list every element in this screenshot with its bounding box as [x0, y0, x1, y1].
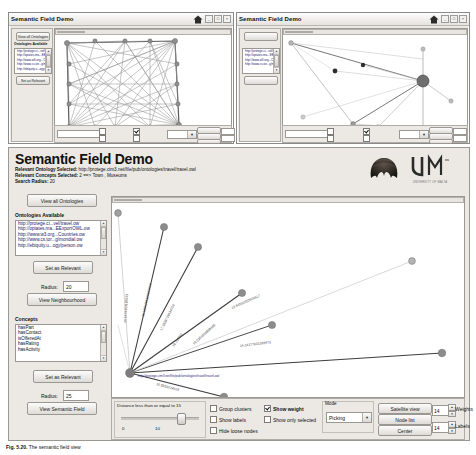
- scroll-down-icon[interactable]: ▼: [46, 67, 51, 73]
- scroll-thumb[interactable]: [101, 227, 106, 239]
- node-list-button[interactable]: Node list: [378, 414, 432, 425]
- window-right-buttons[interactable]: _ □ ×: [441, 15, 467, 23]
- scroll-thumb[interactable]: [274, 55, 279, 67]
- scroll-thumb[interactable]: [114, 199, 142, 201]
- window-right[interactable]: Semantic Field Demo _ □ × http://protege…: [236, 12, 470, 144]
- checkbox-group-clusters[interactable]: Group clusters: [210, 405, 252, 412]
- center-button-right[interactable]: [429, 139, 453, 144]
- distance-field-left[interactable]: [57, 130, 101, 138]
- chevron-down-icon[interactable]: ▼: [187, 131, 196, 138]
- window-left[interactable]: Semantic Field Demo _ □ × View all Ontol…: [8, 12, 234, 144]
- set-as-relevant-button-ontologies[interactable]: Set as Relevant: [33, 261, 93, 274]
- window-right-titlebar[interactable]: Semantic Field Demo _ □ ×: [237, 13, 469, 26]
- satellite-view-button[interactable]: Satellite view: [378, 403, 432, 414]
- scroll-down-icon[interactable]: ▼: [274, 67, 279, 73]
- graph-node[interactable]: [238, 289, 245, 296]
- concepts-listbox[interactable]: hasPart hasContact isOfferedAt hasRating…: [15, 324, 107, 362]
- checkbox-box: [210, 405, 217, 412]
- scroll-down-icon[interactable]: ▼: [101, 355, 106, 361]
- window-left-buttons[interactable]: _ □ ×: [205, 15, 231, 23]
- checkbox-left-1[interactable]: [99, 128, 106, 135]
- labels-spinner[interactable]: 14 ▲ ▼: [432, 421, 456, 434]
- slider-thumb[interactable]: [177, 413, 186, 425]
- checkbox-box: [264, 416, 271, 423]
- chevron-down-icon[interactable]: ▼: [419, 131, 428, 138]
- scrollbar-vertical[interactable]: ▲ ▼: [100, 325, 106, 361]
- checkbox-left-4[interactable]: [133, 135, 140, 142]
- set-as-relevant-button-right[interactable]: [244, 76, 278, 85]
- list-item[interactable]: http://ebiquity.u...ogy/person.ow: [16, 243, 106, 248]
- checkbox-label: Show labels: [219, 417, 246, 423]
- weights-value[interactable]: 14: [432, 405, 449, 416]
- mode-combo-right[interactable]: ▼: [399, 130, 429, 139]
- semantic-field-graph[interactable]: 16.1424153186373 15.1185268116620006 17.…: [112, 205, 464, 398]
- distance-group: Distance less than or equal to 15 0 10: [114, 401, 206, 438]
- labels-value[interactable]: 14: [432, 422, 449, 433]
- scroll-thumb[interactable]: [101, 331, 106, 343]
- maximize-button[interactable]: □: [450, 15, 458, 23]
- chevron-down-icon[interactable]: ▼: [362, 413, 371, 422]
- checkbox-right-4[interactable]: [363, 135, 370, 142]
- ontologies-listbox[interactable]: http://protege.ci...vel/travel.ow http:/…: [15, 220, 107, 256]
- distance-field-right[interactable]: [285, 130, 329, 138]
- edge-label: 15.1185268116620006: [141, 283, 153, 318]
- mode-select[interactable]: Picking ▼: [326, 412, 372, 423]
- radius-input-ontologies[interactable]: 20: [63, 281, 89, 292]
- semantic-field-canvas[interactable]: 16.1424153186373 15.1185268116620006 17.…: [111, 196, 465, 398]
- checkbox-left-3[interactable]: [133, 128, 140, 135]
- view-neighbourhood-button[interactable]: View Neighbourhood: [27, 293, 97, 306]
- home-icon[interactable]: [429, 15, 439, 24]
- graph-node[interactable]: [194, 243, 201, 250]
- view-all-ontologies-button-right[interactable]: [244, 32, 278, 41]
- scroll-thumb[interactable]: [46, 55, 51, 67]
- ontologies-list-left[interactable]: http://protege.ci...vel/travel.ow http:/…: [14, 48, 52, 74]
- checkbox-left-2[interactable]: [99, 135, 106, 142]
- checkbox-right-3[interactable]: [363, 128, 370, 135]
- graph-node[interactable]: [409, 258, 416, 265]
- home-icon[interactable]: [193, 15, 203, 24]
- graph-node-hub[interactable]: [126, 369, 135, 378]
- weights-spinner[interactable]: 14 ▲ ▼: [432, 404, 456, 417]
- labels-spinner-right[interactable]: [453, 135, 467, 142]
- labels-spinner-left[interactable]: [221, 135, 235, 142]
- scrollbar-vertical[interactable]: ▲ ▼: [100, 221, 106, 255]
- checkbox-show-weight[interactable]: Show weight: [264, 405, 304, 412]
- checkbox-show-only-selected[interactable]: Show only selected: [264, 416, 316, 423]
- radius-input-concepts[interactable]: 25: [63, 390, 89, 401]
- canvas-scrollbar-top[interactable]: [112, 197, 464, 203]
- ontologies-list-right[interactable]: http://protege.ci...vel/travel.ow http:/…: [242, 48, 280, 74]
- close-button[interactable]: ×: [223, 15, 231, 23]
- set-as-relevant-button-concepts[interactable]: Set as Relevant: [33, 370, 93, 383]
- figure-caption: Fig. 5.20. The semantic field view: [6, 444, 81, 450]
- view-all-ontologies-button[interactable]: View all Ontologies: [27, 194, 97, 207]
- checkbox-label: Hide loose nodes: [219, 428, 258, 434]
- graph-node[interactable]: [438, 349, 446, 357]
- view-all-ontologies-button-left[interactable]: View all Ontologies: [16, 32, 50, 41]
- close-button[interactable]: ×: [459, 15, 467, 23]
- graph-node[interactable]: [268, 321, 275, 328]
- set-as-relevant-button-left[interactable]: Set as Relevant: [16, 76, 50, 85]
- maximize-button[interactable]: □: [214, 15, 222, 23]
- minimize-button[interactable]: _: [441, 15, 449, 23]
- checkbox-right-2[interactable]: [327, 135, 334, 142]
- graph-node[interactable]: [115, 210, 122, 217]
- checkbox-show-labels[interactable]: Show labels: [210, 416, 246, 423]
- view-semantic-field-button[interactable]: View Semantic Field: [27, 402, 97, 415]
- scrollbar-vertical[interactable]: ▲ ▼: [45, 49, 51, 73]
- window-left-titlebar[interactable]: Semantic Field Demo _ □ ×: [9, 13, 233, 26]
- scroll-down-icon[interactable]: ▼: [101, 249, 106, 255]
- checkbox-right-1[interactable]: [327, 128, 334, 135]
- weights-spinner-left[interactable]: [221, 128, 235, 135]
- distance-slider[interactable]: [121, 413, 199, 423]
- graph-node[interactable]: [160, 223, 167, 230]
- list-item[interactable]: hasActivity: [16, 347, 106, 352]
- scrollbar-vertical[interactable]: ▲ ▼: [273, 49, 279, 73]
- minimize-button[interactable]: _: [205, 15, 213, 23]
- center-button[interactable]: Center: [378, 425, 432, 436]
- checkbox-hide-loose-nodes[interactable]: Hide loose nodes: [210, 427, 258, 434]
- mode-combo-left[interactable]: ▼: [167, 130, 197, 139]
- center-button-left[interactable]: [197, 139, 221, 144]
- search-radius-line: Search Radius: 20: [15, 179, 55, 185]
- screenshot-root: Semantic Field Demo _ □ × View all Ontol…: [0, 0, 476, 455]
- weights-spinner-right[interactable]: [453, 128, 467, 135]
